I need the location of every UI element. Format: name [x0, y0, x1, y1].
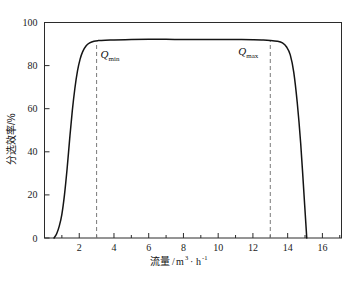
y-tick-label-60: 60	[28, 103, 38, 114]
q-min-label: Q	[101, 48, 109, 60]
y-tick-label-20: 20	[28, 189, 38, 200]
chart-figure: 020406080100 246810121416 QminQmax 分选效率/…	[0, 0, 361, 281]
x-tick-label-16: 16	[317, 242, 327, 253]
x-tick-label-6: 6	[146, 242, 151, 253]
x-tick-label-10: 10	[213, 242, 223, 253]
q-min-subscript: min	[109, 55, 120, 63]
x-axis-unit-dot: ·	[190, 256, 193, 267]
x-axis-title: 流量 / m 3 · h -1	[150, 254, 207, 267]
y-tick-label-80: 80	[28, 60, 38, 71]
x-tick-label-4: 4	[111, 242, 116, 253]
x-tick-label-14: 14	[283, 242, 293, 253]
x-axis-title-slash: /	[172, 256, 175, 267]
x-axis-title-name: 流量	[150, 255, 170, 267]
y-tick-label-40: 40	[28, 146, 38, 157]
x-tick-label-2: 2	[77, 242, 82, 253]
y-axis-title-text: 分选效率/%	[5, 113, 17, 165]
x-tick-label-12: 12	[248, 242, 258, 253]
x-axis-unit-metre: m	[176, 256, 184, 267]
separation-efficiency-chart: 020406080100 246810121416 QminQmax 分选效率/…	[0, 0, 361, 281]
y-tick-label-0: 0	[33, 233, 38, 244]
q-max-label: Q	[238, 45, 246, 57]
q-max-subscript: max	[246, 52, 259, 60]
x-axis-unit-hour-exponent: -1	[202, 254, 207, 261]
x-axis-unit-metre-exponent: 3	[185, 254, 188, 261]
chart-background	[0, 0, 361, 281]
y-axis-title: 分选效率/%	[5, 113, 17, 165]
x-axis-unit-hour: h	[196, 256, 201, 267]
y-tick-label-100: 100	[23, 17, 38, 28]
x-tick-label-8: 8	[181, 242, 186, 253]
